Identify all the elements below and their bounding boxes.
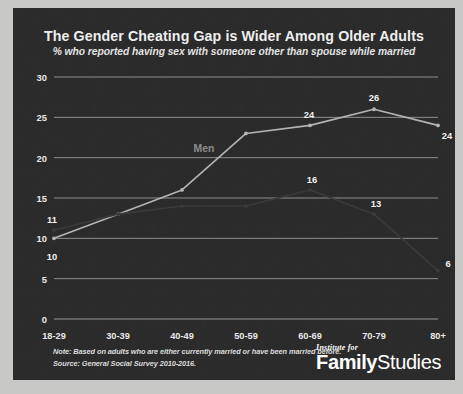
x-tick-label: 50-59 [234, 331, 258, 341]
x-tick-label: 18-29 [42, 331, 66, 341]
data-point [436, 124, 440, 128]
chart-panel: The Gender Cheating Gap is Wider Among O… [13, 8, 455, 380]
x-tick-label: 80+ [430, 331, 446, 341]
data-point [52, 236, 56, 240]
data-point [52, 228, 56, 232]
data-point [116, 212, 120, 216]
data-point [308, 188, 312, 192]
plot-area: 051015202530 18-2930-3940-4950-5960-6970… [54, 77, 438, 319]
data-point [436, 269, 440, 273]
data-point [244, 204, 248, 208]
data-label: 11 [47, 214, 57, 225]
x-tick-label: 30-39 [106, 331, 130, 341]
y-tick-label: 5 [21, 273, 47, 284]
x-tick-label: 40-49 [170, 331, 194, 341]
data-point [244, 132, 248, 136]
data-label: 6 [445, 257, 450, 268]
chart-title: The Gender Cheating Gap is Wider Among O… [13, 28, 455, 44]
logo-studies: Studies [377, 351, 441, 373]
chart-screenshot: The Gender Cheating Gap is Wider Among O… [0, 0, 463, 394]
y-tick-label: 15 [21, 193, 47, 204]
x-tick-label: 70-79 [362, 331, 386, 341]
y-tick-label: 10 [21, 233, 47, 244]
data-point [308, 124, 312, 128]
data-point [180, 188, 184, 192]
data-label: 10 [47, 251, 57, 262]
data-label: 24 [442, 130, 452, 141]
y-tick-label: 30 [21, 72, 47, 83]
y-tick-label: 0 [21, 314, 47, 325]
footer-note: Note: Based on adults who are either cur… [53, 346, 341, 369]
y-tick-label: 20 [21, 152, 47, 163]
footer-note-line-1: Note: Based on adults who are either cur… [53, 346, 341, 358]
data-label: 26 [369, 92, 379, 103]
data-label: 24 [304, 109, 314, 120]
logo-family-studies: FamilyStudies [316, 351, 441, 374]
x-tick-label: 60-69 [298, 331, 322, 341]
data-point [180, 204, 184, 208]
data-point [372, 107, 376, 111]
data-label: 13 [371, 198, 381, 209]
y-tick-label: 25 [21, 112, 47, 123]
data-label: 16 [307, 173, 317, 184]
ifs-logo: Institute for FamilyStudies [316, 343, 441, 374]
data-point [372, 212, 376, 216]
series-label-men: Men [194, 142, 215, 153]
logo-family: Family [316, 351, 377, 373]
chart-subtitle: % who reported having sex with someone o… [13, 46, 455, 57]
footer-note-line-2: Source: General Social Survey 2010-2016. [53, 358, 341, 370]
